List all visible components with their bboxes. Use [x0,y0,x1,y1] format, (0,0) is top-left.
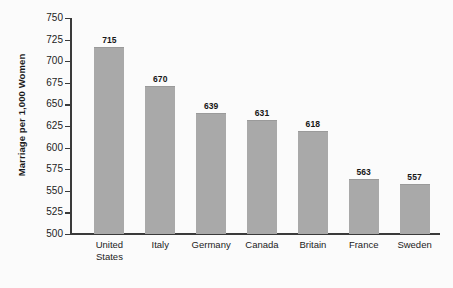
x-axis-category-label: Britain [287,239,339,251]
bar [247,120,277,234]
y-axis-tick-label: 700 [33,55,63,66]
bar-series: 715United States670Italy639Germany631Can… [70,18,440,234]
bar-group: 715United States [94,18,124,234]
y-axis-tick-mark [65,234,70,235]
bar-group: 563France [349,18,379,234]
bar-value-label: 670 [145,74,175,84]
y-axis-tick-label: 625 [33,120,63,131]
bar-chart: Marriage per 1,000 Women 750725700675650… [0,0,453,288]
y-axis-tick-label: 675 [33,77,63,88]
y-axis-tick-label: 600 [33,142,63,153]
bar-group: 670Italy [145,18,175,234]
bar [349,179,379,234]
x-axis-category-label: Sweden [389,239,441,251]
bar [94,47,124,234]
bar-value-label: 715 [94,35,124,45]
bar-group: 639Germany [196,18,226,234]
y-axis-tick-label: 650 [33,98,63,109]
bar [298,131,328,234]
bar-value-label: 618 [298,119,328,129]
x-axis-category-label: Canada [236,239,288,251]
bar-value-label: 557 [400,172,430,182]
x-axis-category-label: Germany [185,239,237,251]
x-axis-category-label: Italy [134,239,186,251]
y-axis-tick-label: 725 [33,34,63,45]
y-axis-tick-label: 550 [33,185,63,196]
y-axis-title: Marriage per 1,000 Women [13,15,31,215]
plot-area: 750725700675650625600575550525500 715Uni… [70,18,440,234]
bar-group: 618Britain [298,18,328,234]
x-axis-category-label: France [338,239,390,251]
bar-value-label: 631 [247,108,277,118]
bar-value-label: 563 [349,167,379,177]
y-axis-tick-label: 525 [33,206,63,217]
bar-group: 631Canada [247,18,277,234]
y-axis-tick-label: 750 [33,12,63,23]
bar-group: 557Sweden [400,18,430,234]
bar-value-label: 639 [196,101,226,111]
y-axis-tick-label: 500 [33,228,63,239]
x-axis-category-label: United States [83,239,135,262]
bar [145,86,175,234]
bar [400,184,430,234]
bar [196,113,226,234]
y-axis-tick-label: 575 [33,163,63,174]
